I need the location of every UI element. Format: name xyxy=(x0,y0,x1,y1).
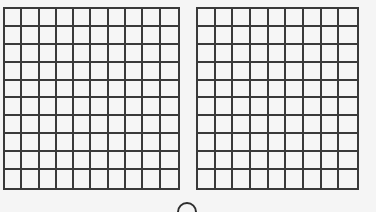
grid-cell xyxy=(126,27,143,45)
grid-cell xyxy=(322,9,340,27)
grid-cell xyxy=(74,27,91,45)
grid-cell xyxy=(216,152,234,170)
grid-cell xyxy=(251,170,269,188)
grid-cell xyxy=(304,27,322,45)
grid-cell xyxy=(57,134,74,152)
grid-cell xyxy=(143,152,160,170)
grid-cell xyxy=(143,116,160,134)
grid-cell xyxy=(91,152,108,170)
grid-cell xyxy=(251,152,269,170)
grid-cell xyxy=(304,170,322,188)
grid-cell xyxy=(161,134,178,152)
grid-cell xyxy=(126,63,143,81)
grid-cell xyxy=(109,63,126,81)
grid-cell xyxy=(286,27,304,45)
grid-cell xyxy=(57,9,74,27)
grid-cell xyxy=(251,81,269,99)
grid-cell xyxy=(322,63,340,81)
grid-cell xyxy=(126,134,143,152)
grid-cell xyxy=(286,116,304,134)
grid-cell xyxy=(22,27,39,45)
grid-cell xyxy=(322,170,340,188)
grid-cell xyxy=(251,116,269,134)
grid-cell xyxy=(216,63,234,81)
right-grid xyxy=(196,7,359,190)
grid-cell xyxy=(74,170,91,188)
grid-cell xyxy=(91,27,108,45)
grid-cell xyxy=(339,81,357,99)
grid-cell xyxy=(233,134,251,152)
grid-cell xyxy=(286,45,304,63)
grid-cell xyxy=(22,134,39,152)
grid-cell xyxy=(40,63,57,81)
grid-cell xyxy=(74,116,91,134)
grid-cell xyxy=(304,152,322,170)
grid-cell xyxy=(304,45,322,63)
grid-cell xyxy=(269,81,287,99)
grid-cell xyxy=(57,98,74,116)
grid-cell xyxy=(143,9,160,27)
grid-cell xyxy=(233,170,251,188)
grid-cell xyxy=(74,9,91,27)
grid-cell xyxy=(233,98,251,116)
grid-cell xyxy=(304,9,322,27)
grid-cell xyxy=(198,45,216,63)
grid-cell xyxy=(216,98,234,116)
grid-cell xyxy=(126,116,143,134)
grid-cell xyxy=(233,45,251,63)
grid-cell xyxy=(40,98,57,116)
grid-cell xyxy=(286,9,304,27)
grid-cell xyxy=(91,81,108,99)
grid-cell xyxy=(161,9,178,27)
grid-cell xyxy=(22,116,39,134)
grid-cell xyxy=(40,134,57,152)
grid-cell xyxy=(5,152,22,170)
grid-cell xyxy=(198,9,216,27)
grid-cell xyxy=(322,81,340,99)
grid-cell xyxy=(5,134,22,152)
grid-cell xyxy=(251,45,269,63)
grid-cell xyxy=(251,63,269,81)
grid-cell xyxy=(339,152,357,170)
grid-cell xyxy=(91,9,108,27)
grid-cell xyxy=(57,63,74,81)
grid-cell xyxy=(109,27,126,45)
grid-cell xyxy=(304,81,322,99)
grid-cell xyxy=(304,116,322,134)
grid-cell xyxy=(161,98,178,116)
grid-cell xyxy=(109,45,126,63)
grid-cell xyxy=(5,63,22,81)
grid-cell xyxy=(74,134,91,152)
grid-cell xyxy=(57,116,74,134)
grid-cell xyxy=(269,9,287,27)
grid-cell xyxy=(22,98,39,116)
grid-cell xyxy=(126,170,143,188)
grid-cell xyxy=(216,116,234,134)
grid-cell xyxy=(233,9,251,27)
grid-cell xyxy=(161,81,178,99)
circle-marker xyxy=(177,202,197,212)
grid-cell xyxy=(22,152,39,170)
grid-cell xyxy=(322,134,340,152)
grid-cell xyxy=(161,116,178,134)
grid-cell xyxy=(198,81,216,99)
grid-cell xyxy=(216,27,234,45)
grid-cell xyxy=(74,63,91,81)
grid-cell xyxy=(304,98,322,116)
grid-cell xyxy=(286,63,304,81)
grid-cell xyxy=(269,98,287,116)
grid-cell xyxy=(216,81,234,99)
grid-cell xyxy=(109,170,126,188)
grid-cell xyxy=(339,63,357,81)
grid-cell xyxy=(143,63,160,81)
grid-cell xyxy=(91,63,108,81)
grid-cell xyxy=(40,116,57,134)
grid-cell xyxy=(269,116,287,134)
grid-cell xyxy=(91,45,108,63)
grid-cell xyxy=(286,81,304,99)
grid-cell xyxy=(286,98,304,116)
grid-cell xyxy=(40,27,57,45)
grid-cell xyxy=(198,116,216,134)
grid-cell xyxy=(91,116,108,134)
grid-cell xyxy=(339,27,357,45)
